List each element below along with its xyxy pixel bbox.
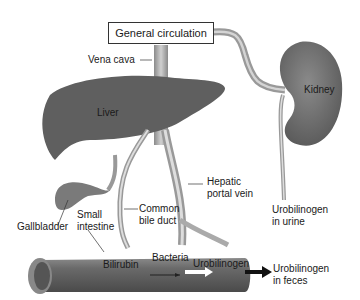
general-circulation-box: General circulation [108,22,214,44]
kidney-label: Kidney [304,84,335,96]
common-bile-duct-label-2: bile duct [139,215,176,227]
hepatic-portal-vein-label-1: Hepatic [207,176,241,188]
vena-cava-label: Vena cava [88,54,135,66]
gallbladder-label: Gallbladder [17,221,68,233]
gallbladder [55,182,110,210]
small-intestine-label-1: Small [77,209,102,221]
bacteria-label: Bacteria [152,252,189,264]
urobilinogen-label: Urobilinogen [193,258,249,270]
common-bile-duct-label-1: Common [139,203,180,215]
common-bile-duct [120,130,148,248]
hepatic-portal-vein-label-2: portal vein [207,188,253,200]
feces-label-2: in feces [273,275,307,287]
circulation-vessel [212,32,285,90]
liver-label: Liver [97,107,119,119]
bilirubin-label: Bilirubin [103,259,139,271]
feces-label-1: Urobilinogen [273,263,329,275]
liver [42,76,225,160]
urine-label-2: in urine [272,216,305,228]
small-intestine-label-2: intestine [77,221,114,233]
urine-label-1: Urobilinogen [272,204,328,216]
